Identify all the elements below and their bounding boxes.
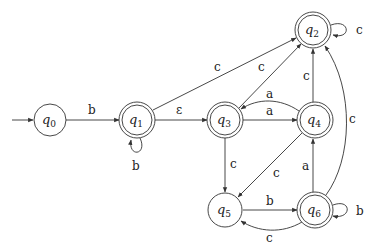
edge-label-q6-q5: c	[266, 231, 273, 245]
edge-label-q3-q4: a	[266, 104, 273, 118]
state-q0: q0	[34, 104, 66, 136]
edge-label-q2-q2: c	[356, 23, 363, 37]
state-q6: q6	[297, 192, 333, 228]
state-q2: q2	[295, 12, 331, 48]
edge-q2-q2	[331, 24, 346, 36]
edge-label-q5-q6: b	[266, 194, 274, 208]
edge-label-q6-q6: b	[356, 204, 364, 218]
automaton-diagram: b b ε c c c a a c c c b c	[0, 0, 379, 250]
state-q3: q3	[207, 102, 243, 138]
edge-label-q6-q4: a	[302, 159, 309, 173]
edge-label-q4-q2: c	[303, 69, 310, 83]
edge-q4-q5	[238, 133, 302, 197]
edge-q6-q5	[241, 221, 302, 230]
edge-label-q1-q3: ε	[176, 103, 182, 117]
state-q5: q5	[208, 193, 242, 227]
edge-label-q3-q2: c	[258, 60, 265, 74]
state-q4: q4	[297, 102, 333, 138]
edge-label-q6-q2: c	[349, 112, 356, 126]
edge-label-q4-q5: c	[273, 166, 280, 180]
edge-q1-q1	[131, 138, 142, 152]
edge-label-q1-q2: c	[214, 60, 221, 74]
edge-q6-q6	[333, 204, 347, 217]
state-q1: q1	[119, 102, 155, 138]
edge-label-q1-q1: b	[132, 159, 140, 173]
edge-label-q0-q1: b	[88, 103, 96, 117]
edge-q1-q2	[153, 38, 296, 110]
edge-label-q4-q3: a	[266, 87, 273, 101]
edge-label-q3-q5: c	[230, 157, 237, 171]
